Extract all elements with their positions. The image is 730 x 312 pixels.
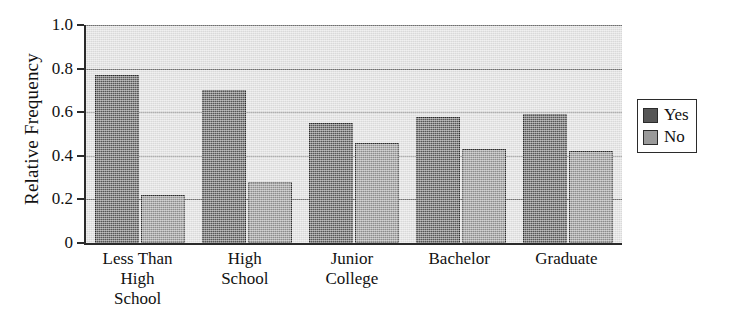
- x-axis-tick-label-line: College: [298, 269, 405, 289]
- x-axis-tick-label-line: Graduate: [513, 249, 620, 269]
- legend-item-no: No: [643, 126, 689, 148]
- y-axis-tick-label: 0.6: [52, 102, 73, 122]
- legend-swatch-icon: [643, 108, 658, 123]
- y-axis-tick-mark: [77, 155, 84, 157]
- x-axis-tick-label: Less ThanHighSchool: [84, 249, 191, 309]
- x-axis-tick-label-line: High: [84, 269, 191, 289]
- x-axis-tick-label-line: Bachelor: [406, 249, 513, 269]
- y-axis-tick-label: 0.4: [52, 146, 73, 166]
- y-axis-tick-mark: [77, 198, 84, 200]
- y-axis-title: Relative Frequency: [21, 9, 43, 249]
- bar-no-3: [462, 149, 506, 243]
- x-axis-tick-label-line: School: [84, 289, 191, 309]
- y-axis-tick-mark: [77, 111, 84, 113]
- x-axis-tick-label: JuniorCollege: [298, 249, 405, 289]
- legend-item-yes: Yes: [643, 104, 689, 126]
- bar-no-4: [569, 151, 613, 243]
- y-axis-tick-label: 0.2: [52, 189, 73, 209]
- legend-swatch-icon: [643, 130, 658, 145]
- y-axis-tick-label: 0.8: [52, 59, 73, 79]
- legend-label: Yes: [664, 105, 689, 125]
- y-axis-tick-mark: [77, 24, 84, 26]
- bar-yes-1: [202, 90, 246, 243]
- x-axis-tick-label-line: Less Than: [84, 249, 191, 269]
- chart-legend: YesNo: [637, 99, 697, 153]
- x-axis-tick-label-line: High: [191, 249, 298, 269]
- bar-chart-figure: Relative Frequency 00.20.40.60.81.0 Less…: [0, 0, 730, 312]
- legend-label: No: [664, 127, 685, 147]
- bar-yes-2: [309, 123, 353, 243]
- x-axis-tick-label-line: Junior: [298, 249, 405, 269]
- bar-no-2: [355, 143, 399, 243]
- x-axis-tick-label: HighSchool: [191, 249, 298, 289]
- plot-area: [84, 25, 622, 245]
- gridline: [86, 69, 622, 70]
- bar-yes-3: [416, 117, 460, 243]
- x-axis-tick-label-line: School: [191, 269, 298, 289]
- bar-yes-0: [95, 75, 139, 243]
- gridline: [86, 112, 622, 113]
- bar-yes-4: [523, 114, 567, 243]
- y-axis-tick-mark: [77, 242, 84, 244]
- gridline: [86, 25, 622, 26]
- x-axis-tick-label: Bachelor: [406, 249, 513, 269]
- y-axis-tick-mark: [77, 68, 84, 70]
- bar-no-0: [141, 195, 185, 243]
- bar-no-1: [248, 182, 292, 243]
- y-axis-tick-label: 1.0: [52, 15, 73, 35]
- x-axis-tick-label: Graduate: [513, 249, 620, 269]
- y-axis-tick-label: 0: [65, 233, 74, 253]
